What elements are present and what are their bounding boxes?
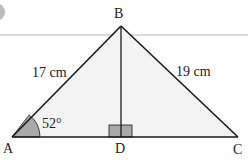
- vertex-label-a: A: [3, 141, 14, 156]
- vertex-label-d: D: [115, 141, 125, 156]
- side-label-ab: 17 cm: [32, 65, 67, 80]
- angle-label-a: 52°: [42, 116, 62, 131]
- side-label-bc: 19 cm: [176, 64, 211, 79]
- marker-circle: [0, 3, 5, 21]
- triangle-diagram: B A C D 17 cm 19 cm 52°: [0, 0, 248, 160]
- vertex-label-b: B: [114, 6, 123, 21]
- diagram-canvas: B A C D 17 cm 19 cm 52°: [0, 0, 248, 160]
- vertex-label-c: C: [233, 142, 242, 157]
